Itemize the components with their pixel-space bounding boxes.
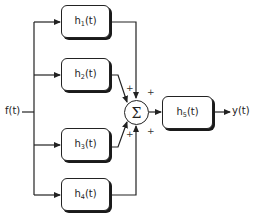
sigma-icon: Σ [132,105,142,121]
block-h4: h4(t) [61,178,110,211]
output-label: y(t) [232,106,250,116]
block-h4-label: h4(t) [74,188,96,201]
block-h2: h2(t) [61,58,110,91]
block-h3: h3(t) [61,128,110,161]
sign-h1: + [147,88,155,97]
summing-junction: Σ [124,100,149,125]
block-h1-label: h1(t) [74,15,96,28]
sign-h4: + [147,127,155,136]
block-h5-label: h5(t) [176,106,198,119]
input-label: f(t) [5,106,20,116]
block-h3-label: h3(t) [74,138,96,151]
sign-h3: + [126,130,134,139]
sign-h2: + [126,84,134,93]
block-h2-label: h2(t) [74,68,96,81]
block-h1: h1(t) [61,5,110,38]
block-h5: h5(t) [162,96,213,129]
